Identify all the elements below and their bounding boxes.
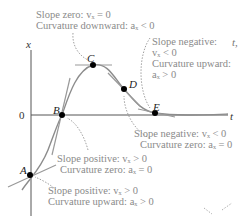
x-axis-label: t bbox=[230, 110, 233, 122]
side-t-label: t, bbox=[232, 36, 238, 48]
annotation-D: Slope negative: vₓ < 0 Curvature zero: a… bbox=[134, 128, 232, 150]
point-A bbox=[27, 172, 33, 178]
annotation-E-acceleration: aₓ > 0 bbox=[152, 69, 231, 80]
leader-C bbox=[73, 33, 88, 60]
label-A: A bbox=[20, 164, 27, 176]
annotation-A: Slope positive: vₓ > 0 Curvature upward:… bbox=[48, 185, 154, 207]
annotation-E-slope: Slope negative: bbox=[152, 36, 231, 47]
annotation-E-curvature: Curvature upward: bbox=[152, 58, 231, 69]
leader-E bbox=[141, 38, 150, 108]
annotation-D-curvature: Curvature zero: aₓ = 0 bbox=[134, 139, 232, 150]
annotation-E-velocity: vₓ < 0 bbox=[152, 47, 231, 58]
label-E: E bbox=[153, 101, 160, 113]
annotation-C-slope: Slope zero: vₓ = 0 bbox=[36, 9, 155, 20]
origin-label: 0 bbox=[19, 109, 25, 121]
label-B: B bbox=[53, 104, 60, 116]
label-D: D bbox=[129, 78, 137, 90]
annotation-D-slope: Slope negative: vₓ < 0 bbox=[134, 128, 232, 139]
annotation-B-curvature: Curvature zero: aₓ = 0 bbox=[57, 164, 152, 175]
label-C: C bbox=[87, 52, 94, 64]
motion-diagram: x 0 t t, A B C D E Slope zero: vₓ = 0 Cu… bbox=[0, 0, 240, 216]
annotation-C-curvature: Curvature downward: aₓ < 0 bbox=[36, 20, 155, 31]
y-axis-label: x bbox=[26, 38, 31, 50]
annotation-E: Slope negative: vₓ < 0 Curvature upward:… bbox=[152, 36, 231, 80]
annotation-C: Slope zero: vₓ = 0 Curvature downward: a… bbox=[36, 9, 155, 31]
graph-canvas bbox=[0, 0, 240, 216]
leader-fragment bbox=[204, 203, 232, 214]
annotation-B: Slope positive: vₓ > 0 Curvature zero: a… bbox=[57, 153, 152, 175]
point-D bbox=[121, 86, 127, 92]
annotation-A-slope: Slope positive: vₓ > 0 bbox=[48, 185, 154, 196]
annotation-A-curvature: Curvature upward: aₓ > 0 bbox=[48, 196, 154, 207]
annotation-B-slope: Slope positive: vₓ > 0 bbox=[57, 153, 152, 164]
leader-B bbox=[67, 118, 88, 150]
